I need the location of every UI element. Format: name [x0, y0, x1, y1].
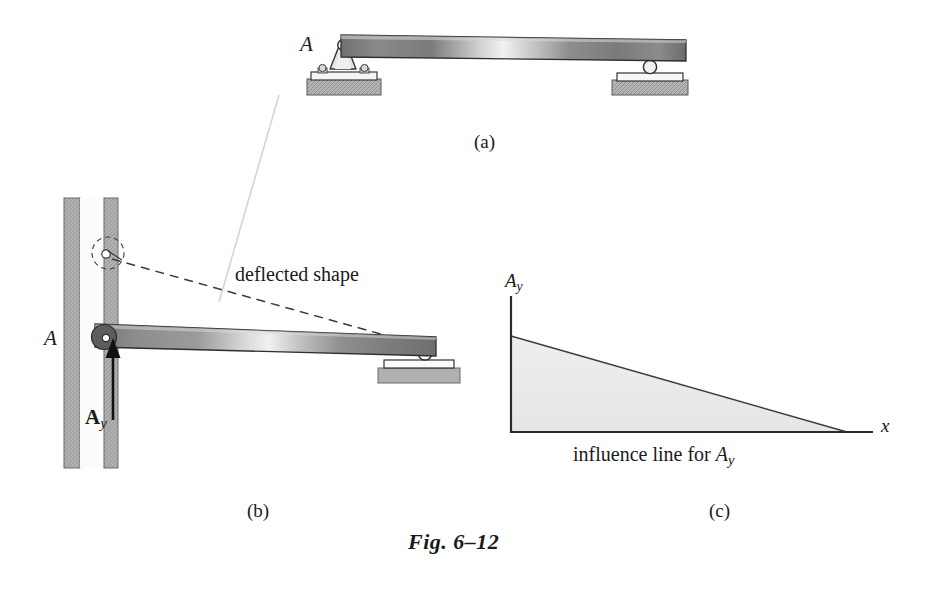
- influence-caption-text: influence line for: [573, 443, 716, 465]
- roller-support-a: [612, 60, 688, 95]
- part-label-c: (c): [709, 500, 730, 522]
- reaction-label-ay: Ay: [85, 405, 107, 432]
- point-label-a-partB: A: [44, 326, 57, 351]
- y-axis-subscript: y: [517, 279, 523, 294]
- beam-b: [95, 324, 436, 356]
- influence-caption-symbol: A: [716, 443, 728, 465]
- influence-line-chart: [511, 296, 873, 433]
- x-axis-label: x: [881, 415, 889, 437]
- part-label-b: (b): [247, 500, 269, 522]
- figure-canvas: A (a) A deflected shape Ay (b) Ay x infl…: [0, 0, 937, 591]
- y-axis-symbol: A: [505, 270, 517, 291]
- part-label-a: (a): [474, 131, 495, 153]
- deflected-shape-label: deflected shape: [235, 263, 359, 286]
- point-label-a-partA: A: [300, 32, 313, 57]
- figure-svg: [0, 0, 937, 591]
- reaction-subscript: y: [100, 415, 107, 431]
- reaction-symbol: A: [85, 405, 100, 429]
- influence-caption-subscript: y: [728, 452, 734, 468]
- part-a-diagram: [307, 35, 688, 95]
- beam-a: [341, 35, 686, 61]
- figure-caption: Fig. 6–12: [408, 529, 499, 555]
- part-b-diagram: [64, 198, 460, 468]
- y-axis-label: Ay: [505, 270, 523, 295]
- influence-line-caption: influence line for Ay: [573, 443, 734, 469]
